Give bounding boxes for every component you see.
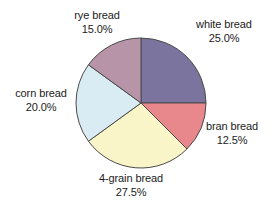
pie-label-bran-bread: bran bread 12.5% (192, 120, 272, 147)
pie-label-corn-bread-name: corn bread (3, 87, 79, 101)
pie-label-4-grain-bread: 4-grain bread 27.5% (72, 172, 190, 199)
pie-label-bran-bread-value: 12.5% (192, 134, 272, 148)
pie-label-rye-bread: rye bread 15.0% (52, 9, 142, 36)
pie-label-white-bread-value: 25.0% (178, 32, 270, 46)
pie-label-bran-bread-name: bran bread (192, 120, 272, 134)
pie-label-4-grain-bread-value: 27.5% (72, 186, 190, 200)
pie-chart: white bread 25.0% bran bread 12.5% 4-gra… (0, 0, 273, 207)
pie-slices-group (76, 38, 206, 168)
pie-label-rye-bread-value: 15.0% (52, 23, 142, 37)
pie-label-white-bread: white bread 25.0% (178, 18, 270, 45)
pie-label-white-bread-name: white bread (178, 18, 270, 32)
pie-label-rye-bread-name: rye bread (52, 9, 142, 23)
pie-label-corn-bread-value: 20.0% (3, 101, 79, 115)
pie-slice-white-bread (141, 38, 206, 103)
pie-label-4-grain-bread-name: 4-grain bread (72, 172, 190, 186)
pie-label-corn-bread: corn bread 20.0% (3, 87, 79, 114)
